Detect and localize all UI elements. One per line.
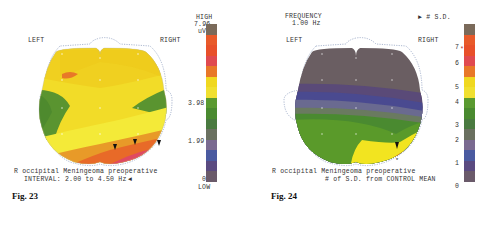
color-scale-segment bbox=[464, 108, 475, 119]
peak-marker-asterisk: * bbox=[395, 157, 399, 164]
color-scale-bar bbox=[464, 24, 475, 182]
color-scale-segment bbox=[464, 56, 475, 67]
scale-tick-6: 6 bbox=[455, 60, 459, 67]
color-scale-segment bbox=[464, 24, 475, 35]
color-scale-segment bbox=[464, 119, 475, 130]
color-scale-segment bbox=[464, 161, 475, 172]
color-scale-segment bbox=[464, 87, 475, 98]
color-scale-segment bbox=[464, 45, 475, 56]
scale-tick-4: 4 bbox=[455, 99, 459, 106]
color-scale-segment bbox=[464, 66, 475, 77]
scale-tick-1: 1 bbox=[455, 160, 459, 167]
color-scale-segment bbox=[464, 150, 475, 161]
scale-tick-0: 0 bbox=[455, 183, 459, 190]
color-scale-segment bbox=[464, 140, 475, 151]
color-scale-segment bbox=[464, 77, 475, 88]
description-line2: # of S.D. from CONTROL MEAN bbox=[325, 176, 436, 183]
color-scale-segment bbox=[464, 171, 475, 182]
scale-tick-2: 2 bbox=[455, 137, 459, 144]
scale-tick-3: 3 bbox=[455, 122, 459, 129]
scale-tick-5: 5 bbox=[455, 84, 459, 91]
color-scale-segment bbox=[464, 98, 475, 109]
scale-tick-7: 7 bbox=[455, 44, 459, 51]
color-scale-segment bbox=[464, 35, 475, 46]
description-line1: R occipital Meningeoma preoperative bbox=[272, 168, 416, 175]
figure-caption: Fig. 24 bbox=[271, 191, 297, 201]
color-scale-segment bbox=[464, 129, 475, 140]
